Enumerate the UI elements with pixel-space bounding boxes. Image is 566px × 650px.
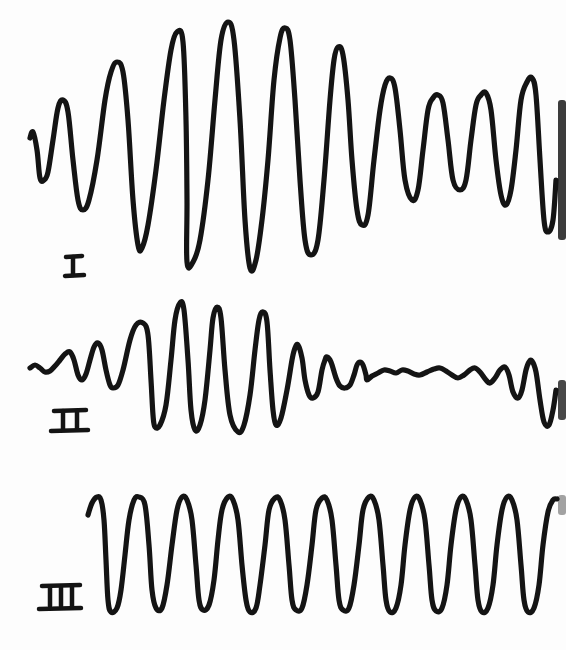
roman-numeral-i-label [65, 256, 84, 276]
waveform-canvas [0, 0, 566, 650]
trace-iii-label: III [42, 586, 43, 587]
trace-ii-label: II [54, 411, 55, 412]
trace-ii-waveform [30, 302, 556, 433]
trace-iii-waveform [88, 496, 557, 613]
scan-edge-shadow [558, 100, 566, 240]
trace-i-waveform [30, 22, 556, 271]
waveform-figure: I II III [0, 0, 566, 650]
scan-edge-shadow [558, 380, 566, 420]
roman-numeral-ii-label [51, 410, 88, 431]
roman-numeral-iii-label [39, 585, 81, 609]
